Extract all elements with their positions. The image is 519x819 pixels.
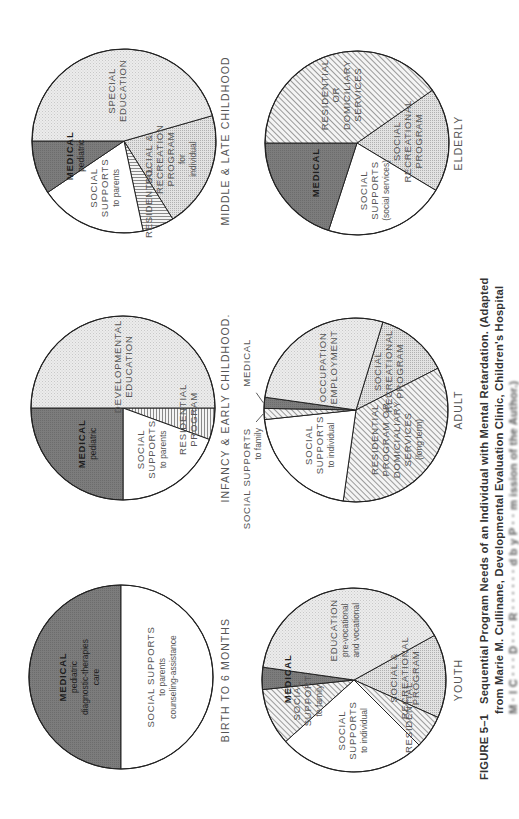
- caption-text-3: M · l C · · · D · · · R · · · · · · d b …: [507, 381, 519, 714]
- pie-chart-infancy-early-childhood: RESIDENTIALPROGRAMSOCIALSUPPORTSto paren…: [31, 313, 231, 502]
- slice-label-special: SPECIALEDUCATION: [106, 60, 128, 122]
- caption-text-1: Sequential Program Needs of an Individua…: [478, 278, 490, 705]
- pie-title-elderly: ELDERLY: [452, 116, 464, 171]
- figure-caption-line-2: from Marie M. Cullinane, Developmental E…: [493, 286, 505, 714]
- pie-chart-birth-to-6-months: MEDICALpediatricdiagnostic-therapiescare…: [29, 585, 231, 769]
- slice-label-residential: RESIDENTIALORDOMICILIARYSERVICES: [319, 59, 363, 130]
- callout-line: [256, 414, 263, 422]
- slice-label-residential: RESIDENTIALPROGRAM: [177, 384, 199, 455]
- pie-title-adult: ADULT: [452, 390, 464, 429]
- pie-title-youth: YOUTH: [452, 659, 464, 701]
- callout-label-social-supports: SOCIAL SUPPORTSto family: [241, 427, 263, 529]
- slice-label-occupation: OCCUPATIONEMPLOYMENT: [317, 330, 339, 405]
- slice-label-education: EDUCATIONpre-vocationaland vocational: [328, 599, 361, 661]
- pie-title-middle-late-childhood: MIDDLE & LATE CHILDHOOD: [219, 56, 231, 225]
- pie-title-birth-to-6-months: BIRTH TO 6 MONTHS: [219, 618, 231, 742]
- callout-line: [256, 393, 263, 403]
- slice-label-residential: RESIDENTIAL: [403, 682, 414, 753]
- slice-label-residential: RESIDENTIAL: [143, 167, 154, 238]
- pie-chart-adult: SOCIALRECREATIONALPROGRAMRESIDENTIALPROG…: [241, 318, 464, 529]
- pie-title-infancy-early-childhood: INFANCY & EARLY CHILDHOOD.: [219, 313, 231, 502]
- pie-chart-youth: SOCIAL &RECREATIONALPROGRAMRESIDENTIALSO…: [262, 588, 464, 772]
- pie-chart-middle-late-childhood: SOCIAL &RECREATIONPROGRAMforindividualRE…: [32, 49, 231, 238]
- figure-number: FIGURE 5–1: [478, 714, 490, 780]
- slice-label-medical: MEDICAL: [310, 148, 321, 197]
- slice-label-medical: MEDICAL: [282, 654, 293, 703]
- caption-text-2: from Marie M. Cullinane, Developmental E…: [493, 286, 505, 714]
- figure-caption-line-1: FIGURE 5–1 Sequential Program Needs of a…: [478, 278, 490, 781]
- figure-caption-line-3: M · l C · · · D · · · R · · · · · · d b …: [507, 381, 519, 714]
- callout-label-medical: MEDICAL: [241, 339, 252, 387]
- pie-chart-elderly: SOCIALRECREATIONALPROGRAMSOCIALSUPPORTS(…: [265, 51, 464, 235]
